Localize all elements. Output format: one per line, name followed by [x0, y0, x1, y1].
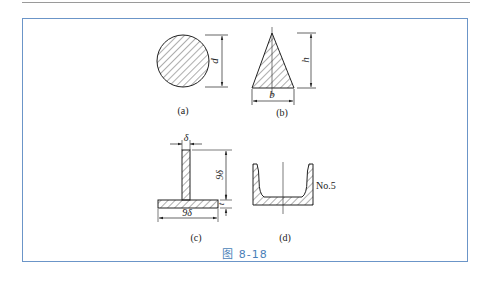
panel-d-channel-section: No.5 (d) [253, 162, 336, 244]
panel-c-t-section: δ 9δ t 9δ (c) [158, 132, 232, 244]
panel-c-label: (c) [190, 232, 201, 244]
panel-b-label: (b) [276, 107, 288, 119]
figure-caption: 图 8-18 [0, 245, 490, 261]
dim-9delta-horizontal-label: 9δ [182, 207, 192, 218]
panel-d-label: (d) [279, 232, 291, 244]
dim-d-label: d [208, 58, 220, 64]
dim-9delta-vertical-label: 9δ [214, 170, 225, 180]
panel-a-circle: d (a) [157, 35, 228, 117]
dim-b-label: b [269, 88, 275, 100]
dim-delta-label: δ [184, 132, 189, 143]
figure-drawing: d (a) h b (b) δ 9δ t [0, 0, 490, 286]
panel-a-label: (a) [177, 105, 188, 117]
no5-label: No.5 [316, 180, 336, 191]
panel-b-triangle: h b (b) [252, 27, 316, 119]
dim-h-label: h [299, 57, 311, 63]
